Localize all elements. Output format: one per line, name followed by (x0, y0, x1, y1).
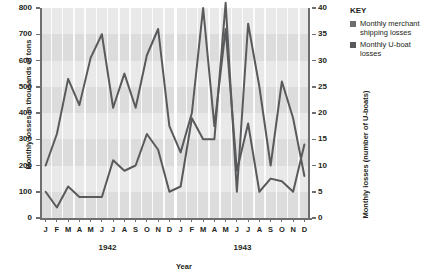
x-axis-month-label: A (73, 225, 85, 234)
x-axis-month-label: S (130, 225, 142, 234)
x-axis-month-label: F (51, 225, 63, 234)
y-axis-right-tick-label: 40 (318, 4, 340, 12)
x-axis-month-label: J (40, 225, 52, 234)
y-axis-right-tick-label: 15 (318, 135, 340, 143)
x-axis-month-label: J (175, 225, 187, 234)
x-axis-month-label: J (231, 225, 243, 234)
x-axis-month-label: J (107, 225, 119, 234)
y-axis-right (308, 8, 310, 218)
y-axis-left (40, 8, 42, 218)
x-axis-month-label: F (186, 225, 198, 234)
legend-item-label: Monthly U-boat losses (360, 40, 420, 58)
legend-item-merchant-shipping-losses: Monthly merchant shipping losses (350, 19, 420, 37)
x-axis-month-label: A (208, 225, 220, 234)
series-lines (40, 8, 310, 218)
y-axis-right-title: Monthly losses (number of U-boats) (361, 75, 370, 235)
line-merchant-shipping-losses (46, 8, 305, 192)
y-axis-right-tick-label: 5 (318, 188, 340, 196)
legend-swatch-icon (350, 42, 356, 48)
x-axis-month-label: M (220, 225, 232, 234)
legend-title: KEY (350, 6, 420, 15)
y-axis-right-tick-label: 0 (318, 214, 340, 222)
y-axis-left-tick-label: 800 (6, 4, 32, 12)
x-axis-month-label: O (141, 225, 153, 234)
y-axis-left-title: Monthly losses in thousands of tons (24, 25, 33, 185)
y-axis-left-tick-label: 100 (6, 188, 32, 196)
y-axis-right-tick-label: 35 (318, 30, 340, 38)
legend-item-uboat-losses: Monthly U-boat losses (350, 40, 420, 58)
x-axis-month-label: J (96, 225, 108, 234)
x-axis-year-label: 1943 (213, 243, 273, 252)
x-axis-month-label: A (118, 225, 130, 234)
y-axis-right-tick-label: 30 (318, 57, 340, 65)
x-axis-month-label: O (276, 225, 288, 234)
legend-item-label: Monthly merchant shipping losses (360, 19, 420, 37)
x-axis-year-label: 1942 (78, 243, 138, 252)
x-axis-month-label: M (85, 225, 97, 234)
x-axis-title: Year (176, 262, 192, 271)
x-axis-month-label: J (242, 225, 254, 234)
x-axis-month-label: D (163, 225, 175, 234)
line-uboat-losses (46, 3, 305, 208)
plot-area (40, 8, 310, 218)
x-axis-month-label: S (265, 225, 277, 234)
x-axis-month-label: N (152, 225, 164, 234)
y-axis-right-tick-label: 20 (318, 109, 340, 117)
x-axis-month-label: D (298, 225, 310, 234)
x-axis-month-label: A (253, 225, 265, 234)
x-axis-month-label: M (62, 225, 74, 234)
y-axis-right-tick-label: 25 (318, 83, 340, 91)
y-axis-left-tick-label: 0 (6, 214, 32, 222)
x-axis-month-label: M (197, 225, 209, 234)
x-axis-month-label: N (287, 225, 299, 234)
chart-root: 8007006005004003002001000 40353025201510… (0, 0, 421, 280)
legend-swatch-icon (350, 21, 356, 27)
y-axis-right-tick-label: 10 (318, 162, 340, 170)
legend: KEY Monthly merchant shipping losses Mon… (350, 6, 420, 61)
